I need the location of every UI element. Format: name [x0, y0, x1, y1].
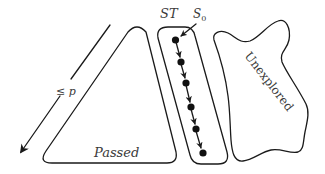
depth-arrow-label: ≤ p — [56, 85, 76, 98]
trace-edge — [176, 42, 180, 57]
st-region-label: ST — [160, 6, 179, 21]
unexplored-region-label: Unexplored — [242, 49, 297, 114]
trace-path — [172, 36, 207, 156]
start-state-label: S0 — [193, 7, 206, 23]
trace-node — [187, 103, 194, 110]
depth-arrow-lower-segment — [21, 96, 60, 152]
depth-arrow: ≤ p — [21, 25, 110, 152]
unexplored-region-outline — [214, 20, 308, 161]
depth-arrow-upper-segment — [71, 25, 110, 79]
trace-node — [182, 79, 189, 86]
trace-node — [177, 58, 184, 65]
st-region: ST — [158, 6, 228, 164]
trace-edge — [181, 64, 185, 78]
trace-node — [192, 125, 199, 132]
trace-edge — [196, 131, 201, 148]
unexplored-region: Unexplored — [214, 20, 308, 161]
start-state-arrow — [181, 24, 196, 36]
passed-region-label: Passed — [93, 145, 139, 160]
trace-edge — [191, 109, 195, 124]
diagram-canvas: ≤ p Passed ST S0 Unexplored — [0, 0, 325, 174]
trace-node — [199, 149, 206, 156]
trace-node-s0 — [172, 36, 179, 43]
trace-edge — [186, 85, 190, 102]
